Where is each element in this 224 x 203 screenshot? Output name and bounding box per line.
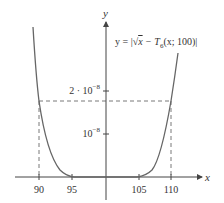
- y-axis-label: y: [102, 7, 108, 19]
- svg-text:90: 90: [34, 184, 44, 195]
- svg-text:95: 95: [67, 184, 77, 195]
- function-label: y = |√x − T6(x; 100)|: [115, 36, 197, 50]
- svg-text:105: 105: [132, 184, 147, 195]
- y-tick-1e-8: 10−8: [83, 126, 101, 139]
- chart: x y 90 95 105 110 2 · 10−8 10−8 y = |√x …: [0, 0, 224, 203]
- x-axis-label: x: [204, 171, 210, 183]
- y-tick-labels: 2 · 10−8 10−8: [69, 83, 100, 139]
- svg-text:110: 110: [164, 184, 179, 195]
- y-tick-2e-8: 2 · 10−8: [69, 83, 100, 96]
- dashed-reference-lines: [39, 101, 171, 177]
